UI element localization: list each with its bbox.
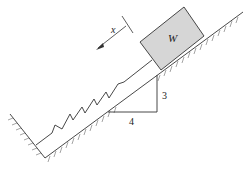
slope-run-label: 4 xyxy=(129,116,134,127)
block-weight-label: W xyxy=(168,32,178,44)
displacement-label: x xyxy=(110,24,116,35)
spring xyxy=(36,60,152,145)
diagram-canvas: 3 4 W x xyxy=(0,0,249,171)
incline-plane xyxy=(45,12,243,162)
slope-rise-label: 3 xyxy=(162,90,167,101)
anchor-wall xyxy=(8,114,45,158)
